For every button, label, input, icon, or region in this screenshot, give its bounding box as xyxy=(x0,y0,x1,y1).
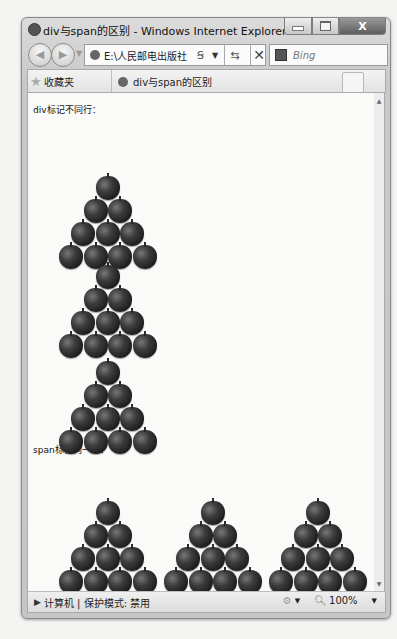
apple-image xyxy=(59,570,83,592)
zoom-icon: 🔍︎ xyxy=(314,595,327,606)
scroll-up-icon[interactable]: ▲ xyxy=(374,97,384,104)
status-bar: ▶ 计算机 | 保护模式: 禁用 ⚙ ▼ 🔍︎ 100% ▼ xyxy=(27,591,386,613)
page-icon xyxy=(90,50,100,60)
apple-image xyxy=(238,570,262,592)
apple-image xyxy=(84,524,108,548)
apple-image xyxy=(120,407,144,431)
apple-image xyxy=(343,570,367,592)
div-heading: div标记不同行： xyxy=(33,103,101,116)
stop-icon[interactable]: ✕ xyxy=(253,47,265,63)
apple-image xyxy=(120,311,144,335)
ie-window: div与span的区别 - Windows Internet Explorer … xyxy=(21,17,391,619)
apple-image xyxy=(120,547,144,571)
apple-image xyxy=(330,547,354,571)
new-tab-button[interactable] xyxy=(342,72,364,94)
apple-image xyxy=(306,501,330,525)
title-bar[interactable]: div与span的区别 - Windows Internet Explorer … xyxy=(22,18,390,40)
apple-image xyxy=(164,570,188,592)
smartscreen-dropdown-icon[interactable]: ▼ xyxy=(295,597,300,605)
apple-image xyxy=(318,524,342,548)
apple-image xyxy=(133,334,157,358)
apple-image xyxy=(201,547,225,571)
apple-image xyxy=(71,311,95,335)
bing-icon[interactable] xyxy=(275,49,287,61)
apple-image xyxy=(71,222,95,246)
span-apple-pyramid xyxy=(164,501,262,592)
search-input[interactable]: Bing xyxy=(293,50,315,61)
apple-image xyxy=(96,222,120,246)
scroll-down-icon[interactable]: ▼ xyxy=(374,580,384,587)
tab-bar: ★ 收藏夹 div与span的区别 xyxy=(27,69,386,93)
address-input[interactable]: E:\人民邮电出版社 xyxy=(104,48,195,63)
apple-image xyxy=(108,199,132,223)
apple-image xyxy=(294,524,318,548)
forward-arrow-icon: ▶ xyxy=(59,48,67,61)
security-zone-text[interactable]: 计算机 | 保护模式: 禁用 xyxy=(44,595,150,610)
apple-image xyxy=(176,547,200,571)
address-dropdown-icon[interactable]: ▼ xyxy=(212,51,218,60)
span-apple-pyramid xyxy=(269,501,367,592)
apple-image xyxy=(108,334,132,358)
smartscreen-icon[interactable]: ⚙ xyxy=(283,595,292,606)
apple-image xyxy=(96,547,120,571)
apple-image xyxy=(225,547,249,571)
minimize-button[interactable] xyxy=(284,18,312,35)
span-apple-pyramid xyxy=(59,501,157,592)
favorites-label: 收藏夹 xyxy=(44,74,74,89)
apple-image xyxy=(189,524,213,548)
div-apple-pyramid xyxy=(59,265,157,358)
apple-image xyxy=(71,407,95,431)
close-icon: X xyxy=(358,20,366,33)
apple-image xyxy=(294,570,318,592)
apple-image xyxy=(84,430,108,454)
status-right: ⚙ ▼ 🔍︎ 100% ▼ xyxy=(283,595,377,606)
divider xyxy=(224,45,225,65)
ie-logo-icon xyxy=(28,23,41,36)
page-content: div标记不同行： span标记同一行： xyxy=(27,92,375,592)
compatibility-view-icon[interactable]: Ꞩ xyxy=(197,49,204,62)
apple-image xyxy=(96,176,120,200)
div-apple-pyramid xyxy=(59,361,157,454)
apple-image xyxy=(108,384,132,408)
div-apple-pyramid xyxy=(59,176,157,269)
apple-image xyxy=(96,407,120,431)
apple-image xyxy=(96,361,120,385)
apple-image xyxy=(108,570,132,592)
apple-image xyxy=(133,430,157,454)
maximize-icon xyxy=(320,21,331,31)
apple-image xyxy=(269,570,293,592)
tab-label: div与span的区别 xyxy=(133,74,212,89)
close-button[interactable]: X xyxy=(339,18,386,35)
apple-image xyxy=(84,334,108,358)
tab-div-span[interactable]: div与span的区别 xyxy=(112,70,212,93)
zoom-level[interactable]: 100% xyxy=(329,595,358,606)
favorites-button[interactable]: ★ 收藏夹 xyxy=(30,70,74,93)
apple-image xyxy=(133,570,157,592)
search-box[interactable]: Bing xyxy=(269,44,388,66)
apple-image xyxy=(96,501,120,525)
apple-image xyxy=(96,265,120,289)
maximize-button[interactable] xyxy=(312,18,339,35)
apple-image xyxy=(96,311,120,335)
apple-image xyxy=(201,501,225,525)
apple-image xyxy=(213,570,237,592)
apple-image xyxy=(318,570,342,592)
ie-page-icon xyxy=(118,77,128,87)
back-button[interactable]: ◀ xyxy=(28,43,52,67)
window-controls: X xyxy=(284,18,386,36)
minimize-icon xyxy=(292,26,304,31)
address-bar[interactable]: E:\人民邮电出版社 Ꞩ ▼ ⇆ ✕ xyxy=(84,44,266,66)
navigation-bar: ◀ ▶ ▼ E:\人民邮电出版社 Ꞩ ▼ ⇆ ✕ Bing xyxy=(22,41,390,67)
apple-image xyxy=(189,570,213,592)
zoom-dropdown-icon[interactable]: ▼ xyxy=(372,597,377,605)
computer-icon: ▶ xyxy=(34,597,41,607)
forward-button[interactable]: ▶ xyxy=(51,43,75,67)
refresh-icon[interactable]: ⇆ xyxy=(230,49,239,62)
back-arrow-icon: ◀ xyxy=(36,48,44,61)
vertical-scrollbar[interactable]: ▲ ▼ xyxy=(374,92,385,592)
apple-image xyxy=(84,288,108,312)
apple-image xyxy=(120,222,144,246)
apple-image xyxy=(281,547,305,571)
recent-pages-dropdown[interactable]: ▼ xyxy=(76,49,82,58)
star-icon: ★ xyxy=(30,74,42,89)
